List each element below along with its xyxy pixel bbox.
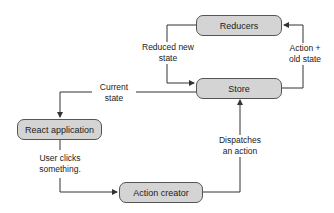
react-application-label: React application: [25, 125, 94, 135]
label-line: Action +: [283, 43, 327, 54]
reducers-node: Reducers: [196, 15, 282, 36]
store-node: Store: [196, 78, 282, 99]
dispatches-action-label: Dispatches an action: [214, 135, 266, 157]
action-old-state-label: Action + old state: [283, 43, 327, 65]
reducers-label: Reducers: [220, 21, 259, 31]
action-creator-label: Action creator: [133, 188, 189, 198]
user-clicks-label: User clicks something.: [33, 153, 87, 175]
react-application-node: React application: [17, 119, 102, 140]
label-line: old state: [283, 54, 327, 65]
label-line: state: [140, 53, 196, 64]
label-line: User clicks: [33, 153, 87, 164]
label-line: something.: [33, 164, 87, 175]
action-creator-node: Action creator: [119, 182, 203, 203]
current-state-label: Current state: [92, 82, 136, 104]
label-line: Dispatches: [214, 135, 266, 146]
store-label: Store: [228, 84, 250, 94]
label-line: Reduced new: [140, 42, 196, 53]
reduced-new-state-label: Reduced new state: [140, 42, 196, 64]
label-line: Current: [92, 82, 136, 93]
label-line: an action: [214, 146, 266, 157]
label-line: state: [92, 93, 136, 104]
